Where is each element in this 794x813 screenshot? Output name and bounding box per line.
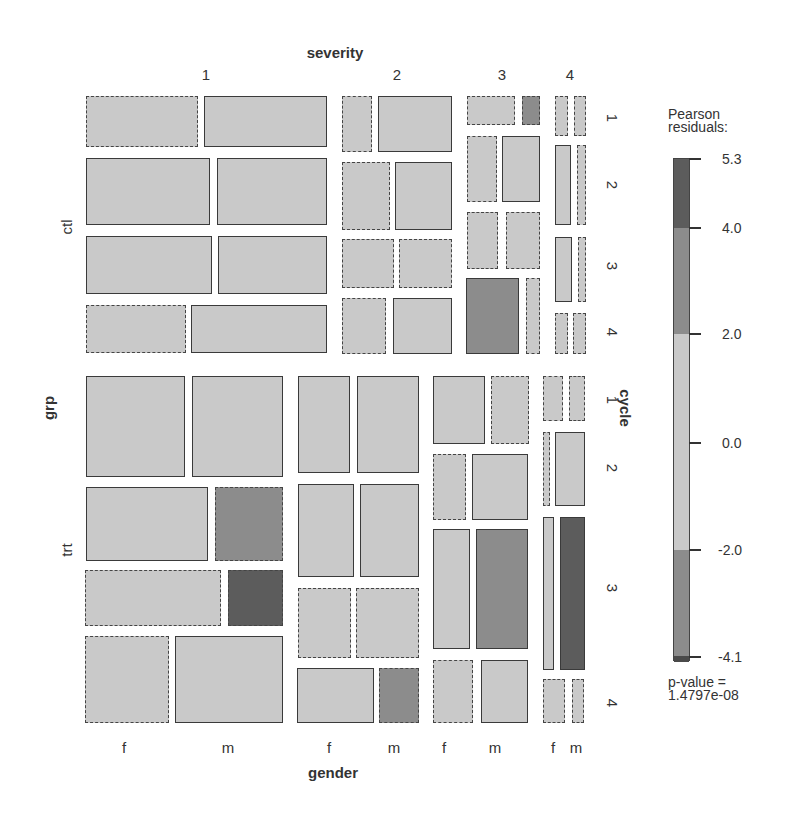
mosaic-cell-trt-sev3-cycle4-f — [433, 660, 473, 723]
cycle-tick-label: 4 — [604, 328, 621, 336]
legend-tick-mark — [689, 442, 701, 444]
legend-tick-label: 4.0 — [722, 220, 741, 236]
mosaic-cell-ctl-sev3-cycle4-m — [526, 278, 540, 354]
grp-tick-label: ctl — [58, 220, 75, 235]
mosaic-cell-trt-sev3-cycle1-f — [433, 376, 485, 444]
cycle-tick-label: 3 — [604, 262, 621, 270]
legend-band — [674, 334, 689, 550]
legend-tick-mark — [689, 549, 701, 551]
legend-tick-mark — [689, 656, 701, 658]
legend-tick-label: -4.1 — [718, 649, 742, 665]
legend-band — [674, 656, 689, 662]
mosaic-cell-ctl-sev3-cycle2-m — [502, 136, 540, 202]
legend-title: Pearson residuals: — [668, 108, 728, 134]
legend-tick-mark — [689, 333, 701, 335]
mosaic-cell-trt-sev2-cycle3-m — [356, 588, 419, 658]
legend-tick-mark — [689, 227, 701, 229]
mosaic-cell-trt-sev4-cycle3-m — [560, 517, 585, 670]
mosaic-cell-trt-sev1-cycle4-m — [175, 636, 283, 723]
cycle-tick-label: 3 — [604, 584, 621, 592]
mosaic-cell-ctl-sev4-cycle4-m — [573, 313, 586, 354]
left-axis-title: grp — [40, 396, 57, 420]
mosaic-cell-trt-sev3-cycle2-m — [472, 454, 528, 520]
mosaic-cell-trt-sev2-cycle1-m — [357, 376, 419, 473]
mosaic-cell-trt-sev1-cycle1-m — [192, 376, 283, 477]
legend-title-line2: residuals: — [668, 121, 728, 134]
mosaic-cell-trt-sev1-cycle1-f — [86, 376, 185, 477]
mosaic-cell-ctl-sev4-cycle2-m — [577, 145, 586, 225]
severity-tick-label: 2 — [393, 66, 401, 83]
mosaic-cell-trt-sev4-cycle3-f — [543, 517, 554, 670]
gender-tick-label: m — [570, 739, 583, 756]
mosaic-cell-ctl-sev3-cycle1-m — [522, 96, 540, 125]
mosaic-cell-ctl-sev3-cycle2-f — [467, 136, 497, 202]
mosaic-cell-ctl-sev4-cycle3-m — [578, 237, 586, 302]
gender-tick-label: f — [122, 739, 126, 756]
severity-tick-label: 4 — [566, 66, 574, 83]
cycle-tick-label: 1 — [604, 396, 621, 404]
mosaic-cell-trt-sev2-cycle4-m — [379, 668, 419, 723]
mosaic-cell-ctl-sev1-cycle1-f — [86, 96, 198, 147]
mosaic-cell-ctl-sev4-cycle1-m — [574, 96, 586, 136]
mosaic-cell-ctl-sev4-cycle3-f — [555, 237, 572, 302]
cycle-tick-label: 1 — [604, 114, 621, 122]
gender-tick-label: m — [388, 739, 401, 756]
bottom-axis-title: gender — [308, 764, 358, 781]
mosaic-cell-ctl-sev4-cycle4-f — [555, 313, 568, 354]
legend-tick-mark — [689, 158, 701, 160]
mosaic-cell-ctl-sev1-cycle3-m — [218, 236, 327, 294]
mosaic-cell-trt-sev2-cycle3-f — [298, 588, 351, 658]
legend-band — [674, 159, 689, 228]
mosaic-cell-ctl-sev2-cycle3-m — [399, 239, 452, 288]
mosaic-cell-ctl-sev1-cycle2-f — [86, 158, 210, 225]
gender-tick-label: f — [551, 739, 555, 756]
cycle-tick-label: 2 — [604, 181, 621, 189]
grp-tick-label: trt — [58, 543, 75, 556]
top-axis-title: severity — [307, 44, 364, 61]
mosaic-cell-trt-sev1-cycle4-f — [85, 636, 169, 723]
mosaic-plot: severity grp cycle gender 1234ctltrt1234… — [0, 0, 794, 813]
mosaic-cell-trt-sev1-cycle3-m — [228, 570, 283, 626]
mosaic-cell-ctl-sev4-cycle1-f — [555, 96, 568, 136]
mosaic-cell-trt-sev4-cycle2-f — [543, 432, 550, 506]
mosaic-cell-trt-sev3-cycle4-m — [481, 660, 528, 723]
legend-tick-label: 2.0 — [722, 326, 741, 342]
mosaic-cell-trt-sev3-cycle2-f — [433, 454, 466, 520]
mosaic-cell-ctl-sev1-cycle1-m — [204, 96, 327, 147]
mosaic-cell-ctl-sev3-cycle4-f — [466, 278, 519, 354]
mosaic-cell-trt-sev2-cycle4-f — [297, 668, 374, 723]
mosaic-cell-ctl-sev3-cycle3-m — [506, 212, 540, 269]
mosaic-cell-trt-sev1-cycle2-f — [86, 487, 208, 561]
gender-tick-label: f — [327, 739, 331, 756]
mosaic-cell-trt-sev2-cycle2-f — [298, 484, 354, 577]
mosaic-cell-ctl-sev1-cycle3-f — [86, 236, 212, 294]
mosaic-cell-trt-sev4-cycle2-m — [555, 432, 585, 506]
legend-color-bar — [673, 158, 690, 661]
legend-tick-label: 5.3 — [722, 151, 741, 167]
mosaic-cell-ctl-sev2-cycle1-f — [342, 96, 372, 152]
mosaic-cell-trt-sev4-cycle1-m — [569, 376, 585, 421]
mosaic-cell-trt-sev3-cycle3-m — [476, 529, 528, 649]
mosaic-cell-ctl-sev2-cycle2-m — [395, 162, 452, 230]
mosaic-cell-trt-sev4-cycle4-m — [572, 679, 584, 723]
mosaic-cell-trt-sev4-cycle4-f — [543, 679, 565, 723]
mosaic-cell-trt-sev3-cycle3-f — [433, 529, 470, 649]
mosaic-cell-ctl-sev1-cycle4-m — [191, 305, 327, 353]
cycle-tick-label: 4 — [604, 699, 621, 707]
mosaic-cell-ctl-sev4-cycle2-f — [555, 145, 571, 225]
mosaic-cell-ctl-sev2-cycle4-f — [342, 298, 386, 354]
severity-tick-label: 3 — [498, 66, 506, 83]
mosaic-cell-trt-sev3-cycle1-m — [491, 376, 529, 444]
gender-tick-label: m — [222, 739, 235, 756]
legend-tick-label: -2.0 — [718, 542, 742, 558]
mosaic-cell-ctl-sev1-cycle4-f — [86, 305, 186, 353]
p-value: p-value = 1.4797e-08 — [668, 676, 739, 702]
mosaic-cell-trt-sev2-cycle2-m — [360, 484, 419, 577]
mosaic-cell-ctl-sev1-cycle2-m — [217, 158, 327, 225]
mosaic-cell-trt-sev1-cycle2-m — [215, 487, 283, 561]
mosaic-cell-ctl-sev2-cycle3-f — [342, 239, 394, 288]
mosaic-cell-trt-sev2-cycle1-f — [298, 376, 350, 473]
mosaic-cell-ctl-sev2-cycle2-f — [342, 162, 390, 230]
mosaic-cell-trt-sev1-cycle3-f — [85, 570, 221, 626]
mosaic-cell-ctl-sev3-cycle3-f — [467, 212, 498, 269]
